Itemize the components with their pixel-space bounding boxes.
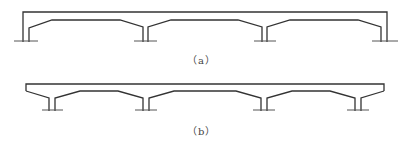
panel-a-top-chord (23, 12, 387, 42)
panel-a-structure (14, 12, 398, 42)
panel-b-deck (26, 84, 384, 91)
panel-a-span-1 (29, 20, 143, 42)
panel-b-right-cantilever (361, 91, 384, 111)
panel-a-span-3 (267, 20, 381, 42)
panel-b-structure (26, 84, 384, 111)
panel-a-span-2 (148, 20, 262, 42)
panel-b-span-1 (55, 91, 143, 111)
panel-b-caption: （b） (187, 123, 216, 138)
panel-b-span-3 (267, 91, 355, 111)
panel-b-span-2 (149, 91, 261, 111)
panel-a-caption: （a） (187, 52, 216, 67)
panel-b-left-cantilever (26, 91, 49, 111)
